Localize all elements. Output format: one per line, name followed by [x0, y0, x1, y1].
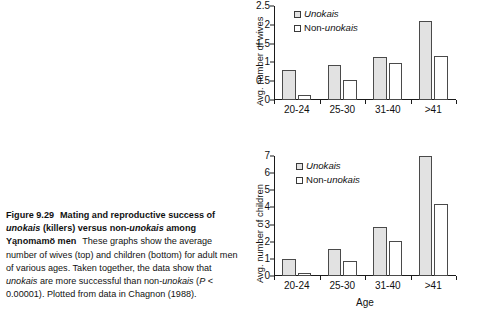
bar-wives-2024-non-unokais	[298, 95, 312, 100]
x-tick-label: 31-40	[375, 281, 401, 291]
x-tick-mark	[320, 276, 321, 280]
y-tick-mark	[270, 241, 274, 242]
legend-swatch-icon-unokais	[296, 163, 303, 170]
y-tick-mark	[270, 24, 274, 25]
x-tick-label: 20-24	[284, 281, 310, 291]
y-tick-label: 1.5	[256, 39, 270, 49]
figure-number: Figure 9.29	[6, 210, 54, 220]
y-tick-mark	[270, 43, 274, 44]
plot-area-wrapper-wives: Unokais Non-unokais 00.511.522.520-2425-…	[274, 6, 456, 100]
y-tick-mark	[270, 173, 274, 174]
plot-area-children: Age Unokais Non-unokais 0123456720-2425-…	[274, 156, 456, 276]
y-tick-mark	[270, 156, 274, 157]
y-tick-mark	[270, 190, 274, 191]
x-tick-label: >41	[425, 281, 442, 291]
legend-label-non-unokais: Non-unokais	[306, 173, 360, 187]
y-tick-mark	[270, 258, 274, 259]
bar-children-41-unokais	[419, 156, 433, 276]
bar-wives-2024-unokais	[282, 70, 296, 100]
x-tick-mark	[456, 100, 457, 104]
x-tick-label: 20-24	[284, 105, 310, 115]
y-tick-mark	[270, 224, 274, 225]
x-axis-label-children: Age	[274, 297, 456, 308]
chart-panel-children: Avg. number of children Age Unokais Non-…	[252, 152, 482, 316]
y-axis-label-wives: Avg. number of wives	[254, 92, 265, 106]
legend-label-unokais: Unokais	[306, 159, 341, 173]
plot-area-wrapper-children: Age Unokais Non-unokais 0123456720-2425-…	[274, 156, 456, 276]
y-tick-mark	[270, 6, 274, 7]
legend-item-unokais: Unokais	[296, 159, 360, 173]
x-tick-mark	[365, 100, 366, 104]
legend-children: Unokais Non-unokais	[296, 159, 360, 187]
bar-wives-3140-unokais	[373, 57, 387, 100]
y-tick-mark	[270, 207, 274, 208]
legend-item-unokais: Unokais	[294, 7, 358, 21]
y-tick-label: 0.5	[256, 76, 270, 86]
x-tick-mark	[456, 276, 457, 280]
y-tick-mark	[270, 62, 274, 63]
bar-children-2530-unokais	[328, 249, 342, 276]
bar-children-3140-unokais	[373, 227, 387, 276]
x-tick-mark	[411, 276, 412, 280]
legend-wives: Unokais Non-unokais	[294, 7, 358, 35]
x-tick-label: 25-30	[329, 105, 355, 115]
y-axis-line	[274, 6, 275, 100]
x-tick-label: >41	[425, 105, 442, 115]
x-tick-mark	[274, 100, 275, 104]
bar-children-2530-non-unokais	[343, 261, 357, 276]
bar-children-2024-unokais	[282, 259, 296, 276]
legend-swatch-icon-non-unokais	[296, 177, 303, 184]
figure-caption: Figure 9.29Mating and reproductive succe…	[6, 209, 238, 301]
bar-wives-41-non-unokais	[434, 56, 448, 100]
legend-item-non-unokais: Non-unokais	[294, 21, 358, 35]
bar-wives-3140-non-unokais	[389, 63, 403, 100]
bar-children-41-non-unokais	[434, 204, 448, 276]
bar-wives-41-unokais	[419, 21, 433, 100]
legend-label-non-unokais: Non-unokais	[304, 21, 358, 35]
chart-panel-wives: Avg. number of wives Unokais Non-unokais…	[252, 2, 482, 130]
y-axis-line	[274, 156, 275, 276]
legend-swatch-icon-non-unokais	[294, 25, 301, 32]
x-tick-mark	[365, 276, 366, 280]
legend-item-non-unokais: Non-unokais	[296, 173, 360, 187]
bar-children-2024-non-unokais	[298, 273, 312, 276]
bar-children-3140-non-unokais	[389, 241, 403, 276]
bar-wives-2530-unokais	[328, 65, 342, 100]
y-axis-label-children: Avg. number of children	[254, 269, 265, 283]
y-tick-mark	[270, 81, 274, 82]
y-tick-label: 2.5	[256, 1, 270, 11]
x-tick-mark	[411, 100, 412, 104]
bar-wives-2530-non-unokais	[343, 80, 357, 100]
x-tick-mark	[274, 276, 275, 280]
legend-swatch-icon-unokais	[294, 11, 301, 18]
legend-label-unokais: Unokais	[304, 7, 339, 21]
x-tick-label: 25-30	[329, 281, 355, 291]
plot-area-wives: Unokais Non-unokais 00.511.522.520-2425-…	[274, 6, 456, 100]
x-tick-label: 31-40	[375, 105, 401, 115]
x-tick-mark	[320, 100, 321, 104]
